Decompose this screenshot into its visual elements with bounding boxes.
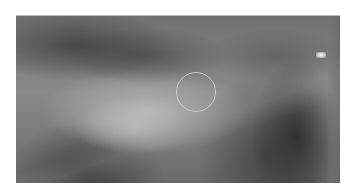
- grayscale-image: [16, 15, 340, 183]
- bright-spot: [316, 52, 326, 58]
- annotation-circle: [176, 72, 216, 112]
- right-edge-band: [328, 16, 340, 183]
